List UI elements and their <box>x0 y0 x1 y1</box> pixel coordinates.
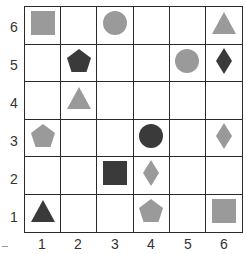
dark-circle-icon <box>138 123 164 153</box>
gray-diamond-icon <box>211 123 237 153</box>
cell-c3-r5 <box>97 45 133 83</box>
col-label-1: 1 <box>24 236 60 252</box>
cell-c3-r6 <box>97 7 133 45</box>
cell-c2-r3 <box>61 120 97 158</box>
cell-c2-r4 <box>61 82 97 120</box>
cell-c1-r2 <box>25 157 61 195</box>
gray-circle-icon <box>174 48 200 78</box>
row-label-1: 1 <box>8 209 20 225</box>
dark-triangle-icon <box>30 198 56 228</box>
gray-circle-icon <box>102 10 128 40</box>
cell-c5-r1 <box>170 195 206 233</box>
cell-c6-r5 <box>206 45 242 83</box>
cell-c2-r1 <box>61 195 97 233</box>
cell-c4-r2 <box>134 157 170 195</box>
cell-c3-r2 <box>97 157 133 195</box>
cell-c2-r6 <box>61 7 97 45</box>
cell-c6-r3 <box>206 120 242 158</box>
row-label-6: 6 <box>8 19 20 35</box>
cell-c5-r3 <box>170 120 206 158</box>
cell-c1-r3 <box>25 120 61 158</box>
cell-c5-r2 <box>170 157 206 195</box>
cell-c5-r5 <box>170 45 206 83</box>
cell-c3-r1 <box>97 195 133 233</box>
cell-c4-r6 <box>134 7 170 45</box>
row-label-3: 3 <box>8 133 20 149</box>
cell-c4-r3 <box>134 120 170 158</box>
cell-c1-r1 <box>25 195 61 233</box>
cell-c4-r4 <box>134 82 170 120</box>
col-label-2: 2 <box>60 236 96 252</box>
gray-diamond-icon <box>138 160 164 190</box>
cell-c6-r6 <box>206 7 242 45</box>
cell-c1-r6 <box>25 7 61 45</box>
cell-c3-r3 <box>97 120 133 158</box>
cell-c5-r4 <box>170 82 206 120</box>
cell-c2-r5 <box>61 45 97 83</box>
cell-c1-r4 <box>25 82 61 120</box>
col-label-4: 4 <box>133 236 169 252</box>
stray-mark <box>2 246 8 247</box>
cell-c6-r1 <box>206 195 242 233</box>
col-label-3: 3 <box>97 236 133 252</box>
gray-pentagon-icon <box>138 198 164 228</box>
cell-c6-r2 <box>206 157 242 195</box>
gray-triangle-icon <box>66 85 92 115</box>
cell-c4-r5 <box>134 45 170 83</box>
dark-diamond-icon <box>211 48 237 78</box>
dark-pentagon-icon <box>66 48 92 78</box>
cell-c5-r6 <box>170 7 206 45</box>
cell-c2-r2 <box>61 157 97 195</box>
row-label-2: 2 <box>8 171 20 187</box>
gray-triangle-icon <box>211 10 237 40</box>
gray-pentagon-icon <box>30 123 56 153</box>
row-label-5: 5 <box>8 57 20 73</box>
cell-c6-r4 <box>206 82 242 120</box>
gray-square-icon <box>30 10 56 40</box>
col-label-6: 6 <box>206 236 242 252</box>
cell-c4-r1 <box>134 195 170 233</box>
shape-grid <box>24 6 243 233</box>
cell-c1-r5 <box>25 45 61 83</box>
dark-square-icon <box>102 160 128 190</box>
cell-c3-r4 <box>97 82 133 120</box>
col-label-5: 5 <box>170 236 206 252</box>
row-label-4: 4 <box>8 95 20 111</box>
gray-square-icon <box>211 198 237 228</box>
